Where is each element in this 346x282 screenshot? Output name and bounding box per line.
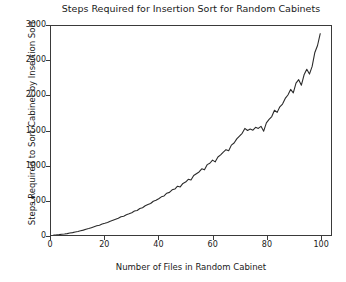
x-tick-label: 0 [35, 241, 65, 249]
plot-area [50, 25, 332, 236]
x-tick-mark [267, 236, 268, 240]
y-tick-label: 1500 [0, 127, 46, 135]
x-tick-label: 20 [89, 241, 119, 249]
series-polyline [54, 34, 321, 235]
chart-figure: Steps Required for Insertion Sort for Ra… [0, 0, 346, 282]
x-tick-label: 60 [198, 241, 228, 249]
x-axis-label: Number of Files in Random Cabinet [50, 262, 332, 272]
y-tick-label: 1000 [0, 162, 46, 170]
x-tick-label: 40 [143, 241, 173, 249]
y-tick-label: 3000 [0, 21, 46, 29]
x-tick-mark [158, 236, 159, 240]
x-tick-mark [213, 236, 214, 240]
chart-title: Steps Required for Insertion Sort for Ra… [50, 3, 332, 15]
x-tick-mark [104, 236, 105, 240]
x-tick-label: 100 [306, 241, 336, 249]
x-tick-mark [50, 236, 51, 240]
x-tick-mark [321, 236, 322, 240]
y-tick-label: 2500 [0, 56, 46, 64]
y-tick-label: 0 [0, 232, 46, 240]
x-tick-label: 80 [252, 241, 282, 249]
y-tick-label: 500 [0, 197, 46, 205]
data-line-series [51, 26, 331, 235]
y-tick-label: 2000 [0, 91, 46, 99]
